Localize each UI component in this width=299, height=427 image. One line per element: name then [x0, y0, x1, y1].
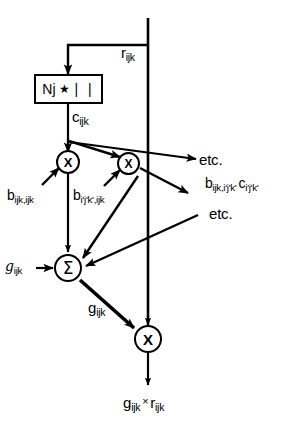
label-b-ipjpkp-ijk: bi'j'k',ijk: [73, 188, 104, 202]
label-etc-lower: etc.: [209, 206, 232, 221]
norm-box-coefficient: Nj: [42, 81, 55, 97]
label-b1-sub: ijk,ijk: [15, 194, 34, 205]
multiply-glyph: X: [143, 331, 153, 348]
label-c-ijk: cijk: [72, 109, 88, 124]
label-result-g: g: [123, 394, 131, 411]
label-scriptg-sub: ijk: [14, 265, 22, 276]
label-bc-base2: c: [236, 175, 245, 191]
diagram-canvas: Nj ★ | | X X Σ X rijk cijk bijk,ijk bi'j…: [0, 0, 299, 427]
norm-box-node[interactable]: Nj ★ | |: [34, 74, 103, 104]
sigma-glyph: Σ: [63, 258, 74, 278]
label-b-ijk-ijk: bijk,ijk: [7, 188, 34, 202]
summation-node[interactable]: Σ: [54, 254, 82, 282]
label-gout-sub: ijk: [96, 306, 105, 318]
edge-r-to-normbox: [68, 45, 148, 74]
label-scriptg-base: g: [5, 258, 14, 274]
star-operator-icon: ★: [56, 82, 72, 96]
multiply-glyph: X: [124, 157, 132, 171]
label-result-r-sub: ijk: [155, 401, 164, 413]
label-bc-sub2: i'j'k': [245, 182, 258, 193]
multiply-node-output[interactable]: X: [134, 325, 162, 353]
label-result: gijk×rijk: [123, 395, 164, 410]
label-gout-base: g: [88, 299, 96, 316]
label-script-g-input: gijk: [5, 259, 22, 273]
label-r-input: rijk: [121, 45, 135, 60]
label-bc-sub1: ijk,i'j'k': [213, 182, 237, 193]
label-g-out: gijk: [88, 300, 105, 315]
multiply-glyph: X: [64, 155, 73, 170]
label-b-c-term: bijk,i'j'k'ci'j'k': [205, 176, 258, 190]
label-etc-upper: etc.: [199, 152, 222, 167]
label-b2-sub: i'j'k',ijk: [81, 194, 105, 205]
label-r-sub: ijk: [126, 51, 135, 63]
label-b1-base: b: [7, 187, 15, 203]
diagram-edges: [0, 0, 299, 427]
multiply-node-left[interactable]: X: [56, 150, 80, 174]
label-b2-base: b: [73, 187, 81, 203]
edge-b-ijkijk-to-mult-left: [42, 168, 59, 185]
norm-bars: | |: [72, 81, 95, 97]
edge-bc-term-to-sum: [86, 215, 198, 266]
edge-b-ipjpkp-to-mult-mid: [104, 170, 120, 186]
label-result-g-sub: ijk: [131, 401, 140, 413]
multiply-node-mid[interactable]: X: [117, 152, 140, 175]
label-result-op: ×: [140, 395, 150, 407]
label-bc-base1: b: [205, 175, 213, 191]
label-c-sub: ijk: [79, 115, 88, 127]
